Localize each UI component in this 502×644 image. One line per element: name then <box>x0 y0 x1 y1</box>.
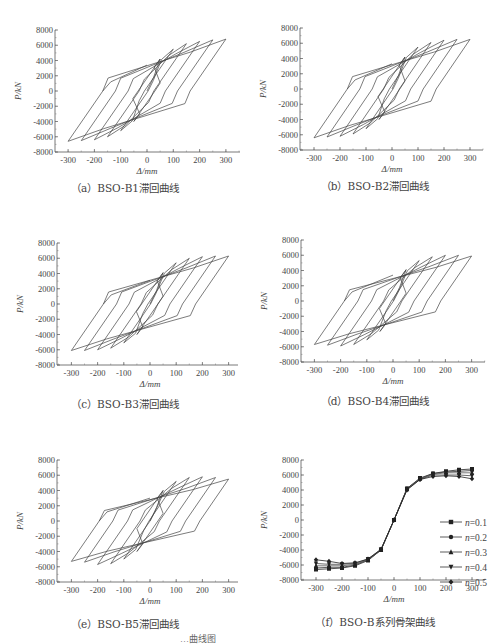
hysteresis-chart-e: 80006000400020000-2000-4000-6000-8000-30… <box>0 430 250 610</box>
y-axis-label: P/kN <box>258 79 268 99</box>
y-tick-label: 0 <box>49 86 53 96</box>
y-tick-label: 0 <box>295 296 299 306</box>
y-tick-label: 2000 <box>282 281 299 291</box>
x-tick-label: -100 <box>116 368 132 378</box>
y-tick-label: 0 <box>51 516 55 526</box>
hysteresis-loops <box>314 39 470 137</box>
y-tick-label: 8000 <box>36 25 53 35</box>
legend-label: n=0.1 <box>465 518 487 528</box>
skeleton-chart-f: 80006000400020000-2000-4000-6000-8000-30… <box>250 430 502 610</box>
hysteresis-chart-b: 80006000400020000-2000-4000-6000-8000-30… <box>250 0 502 175</box>
y-tick-label: -2000 <box>279 530 299 540</box>
y-tick-label: 2000 <box>36 71 53 81</box>
legend-label: n=0.5 <box>465 578 487 588</box>
caption-b: （b）BSO-B2滞回曲线 <box>250 178 500 193</box>
x-tick-label: 0 <box>148 368 152 378</box>
x-axis-label: Δ/mm <box>383 594 405 604</box>
x-tick-label: 200 <box>440 583 453 593</box>
y-tick-label: -8000 <box>35 577 55 587</box>
caption-c: （c）BSO-B3滞回曲线 <box>0 396 250 411</box>
y-tick-label: -4000 <box>35 547 55 557</box>
hysteresis-loops <box>71 477 228 565</box>
y-tick-label: -4000 <box>279 545 299 555</box>
x-axis-label: Δ/mm <box>139 596 161 606</box>
legend-label: n=0.2 <box>465 533 487 543</box>
chart-panel-c: 80006000400020000-2000-4000-6000-8000-30… <box>0 210 250 430</box>
y-tick-label: -6000 <box>278 130 298 140</box>
legend-label: n=0.4 <box>465 563 487 573</box>
x-tick-label: 300 <box>220 155 233 165</box>
y-tick-label: -4000 <box>278 115 298 125</box>
hysteresis-chart-c: 80006000400020000-2000-4000-6000-8000-30… <box>0 210 250 390</box>
x-axis-label: Δ/mm <box>382 376 404 386</box>
y-tick-label: 4000 <box>282 266 299 276</box>
caption-d: （d）BSO-B4滞回曲线 <box>250 393 500 408</box>
x-tick-label: 200 <box>193 155 206 165</box>
y-tick-label: 6000 <box>282 250 299 260</box>
y-tick-label: -2000 <box>35 531 55 541</box>
hysteresis-loops <box>314 255 471 346</box>
y-axis-label: P/kN <box>13 81 23 101</box>
chart-panel-d: 80006000400020000-2000-4000-6000-8000-30… <box>250 210 502 430</box>
x-tick-label: 300 <box>222 585 235 595</box>
x-tick-label: 0 <box>391 365 395 375</box>
y-tick-label: -4000 <box>35 330 55 340</box>
hysteresis-loops <box>71 256 228 351</box>
y-tick-label: 2000 <box>38 284 55 294</box>
x-axis-label: Δ/mm <box>381 164 403 174</box>
figure-caption-fragment: …曲线图 <box>180 632 216 644</box>
caption-e: （e）BSO-B5滞回曲线 <box>0 616 250 631</box>
x-tick-label: 200 <box>196 585 209 595</box>
y-tick-label: -4000 <box>33 117 53 127</box>
y-tick-label: -4000 <box>279 327 299 337</box>
y-tick-label: -6000 <box>35 345 55 355</box>
y-axis-label: P/kN <box>15 511 25 531</box>
y-tick-label: 8000 <box>38 238 55 248</box>
x-axis-label: Δ/mm <box>139 379 161 389</box>
y-tick-label: 6000 <box>282 470 299 480</box>
y-tick-label: 4000 <box>281 54 298 64</box>
x-tick-label: -300 <box>60 155 76 165</box>
y-tick-label: -2000 <box>33 101 53 111</box>
y-axis-label: P/kN <box>15 294 25 314</box>
x-tick-label: -300 <box>307 365 323 375</box>
x-tick-label: -200 <box>332 153 348 163</box>
x-tick-label: 100 <box>412 153 425 163</box>
hysteresis-chart-a: 80006000400020000-2000-4000-6000-8000-30… <box>0 0 250 175</box>
y-tick-label: -6000 <box>279 560 299 570</box>
x-tick-label: 0 <box>390 153 394 163</box>
chart-panel-e: 80006000400020000-2000-4000-6000-8000-30… <box>0 430 250 644</box>
y-tick-label: 0 <box>294 84 298 94</box>
x-tick-label: -300 <box>64 368 80 378</box>
caption-f: （f）BSO-B系列骨架曲线 <box>250 614 500 629</box>
x-tick-label: -100 <box>360 583 376 593</box>
y-tick-label: -8000 <box>279 575 299 585</box>
x-axis-label: Δ/mm <box>136 166 158 175</box>
x-tick-label: 0 <box>392 583 396 593</box>
caption-a: （a）BSO-B1滞回曲线 <box>0 180 250 195</box>
x-tick-label: 200 <box>196 368 209 378</box>
x-tick-label: 300 <box>465 365 478 375</box>
x-tick-label: -100 <box>116 585 132 595</box>
y-tick-label: 8000 <box>282 455 299 465</box>
y-tick-label: -6000 <box>33 132 53 142</box>
y-tick-label: -2000 <box>278 99 298 109</box>
x-tick-label: 300 <box>464 153 477 163</box>
y-tick-label: 6000 <box>36 40 53 50</box>
y-tick-label: 2000 <box>282 500 299 510</box>
x-tick-label: 0 <box>145 155 149 165</box>
x-tick-label: 200 <box>438 153 451 163</box>
x-tick-label: -200 <box>333 365 349 375</box>
y-tick-label: 0 <box>51 299 55 309</box>
x-tick-label: 100 <box>170 585 183 595</box>
y-tick-label: -6000 <box>35 562 55 572</box>
hysteresis-chart-d: 80006000400020000-2000-4000-6000-8000-30… <box>250 210 502 390</box>
y-tick-label: 8000 <box>281 23 298 33</box>
chart-panel-f: 80006000400020000-2000-4000-6000-8000-30… <box>250 430 502 644</box>
y-tick-label: 4000 <box>282 485 299 495</box>
x-tick-label: 300 <box>222 368 235 378</box>
y-tick-label: -8000 <box>279 357 299 367</box>
x-tick-label: -300 <box>308 583 324 593</box>
y-tick-label: 4000 <box>38 269 55 279</box>
y-tick-label: 4000 <box>36 56 53 66</box>
